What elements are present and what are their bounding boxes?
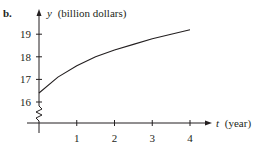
- x-tick-label: 2: [112, 132, 118, 144]
- x-tick-label: 4: [187, 132, 193, 144]
- x-axis-unit: (year): [225, 117, 252, 130]
- y-axis-arrow-icon: [37, 9, 42, 16]
- axis-break-icon: [36, 106, 42, 121]
- y-axis: 16171819 y (billion dollars): [20, 7, 127, 133]
- y-tick-label: 18: [20, 51, 32, 63]
- y-tick-label: 16: [20, 96, 32, 108]
- x-tick-label: 1: [74, 132, 80, 144]
- data-curve: [39, 30, 190, 93]
- x-tick-label: 3: [150, 132, 156, 144]
- x-axis-arrow-icon: [205, 121, 212, 126]
- chart: b. 16171819 y (billion dollars) 1234 t (…: [0, 0, 256, 158]
- svg-text:t (year): t (year): [216, 117, 251, 130]
- y-axis-variable: y: [46, 7, 52, 19]
- x-axis-variable: t: [216, 117, 220, 129]
- y-tick-label: 17: [20, 73, 32, 85]
- x-axis: 1234 t (year): [27, 117, 251, 144]
- y-axis-unit: (billion dollars): [58, 7, 127, 20]
- svg-text:y (billion dollars): y (billion dollars): [46, 7, 127, 20]
- y-tick-label: 19: [20, 28, 32, 40]
- panel-label: b.: [3, 7, 12, 19]
